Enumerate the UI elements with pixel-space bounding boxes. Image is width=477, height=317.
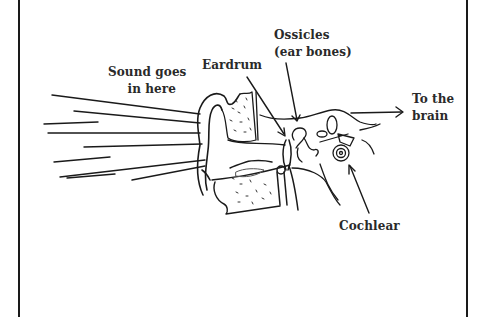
cochlea-spiral xyxy=(333,145,349,161)
label-pointer-arrows xyxy=(247,63,403,213)
label-eardrum: Eardrum xyxy=(202,57,262,74)
bone-stipple-lower xyxy=(232,178,271,204)
label-ossicles: Ossicles (ear bones) xyxy=(274,27,352,61)
label-brain-line-2: brain xyxy=(412,108,454,125)
ossicles-bones xyxy=(292,128,318,162)
label-sound-line-2: in here xyxy=(108,81,176,98)
sound-wave-lines xyxy=(44,95,205,180)
label-ossicles-line-2: (ear bones) xyxy=(274,44,352,61)
label-cochlear: Cochlear xyxy=(339,218,400,235)
ear-diagram-drawing xyxy=(0,0,477,317)
label-sound-line-1: Sound goes xyxy=(108,64,176,81)
upper-bone-region xyxy=(222,92,258,142)
bone-highlight xyxy=(236,169,264,177)
label-to-the-brain: To the brain xyxy=(412,91,454,125)
label-sound-goes-in-here: Sound goes in here xyxy=(108,64,176,98)
label-ossicles-line-1: Ossicles xyxy=(274,27,352,44)
semicircular-canals xyxy=(317,116,354,146)
eustachian-tube xyxy=(277,166,298,210)
ear-canal xyxy=(212,140,290,180)
label-brain-line-1: To the xyxy=(412,91,454,108)
